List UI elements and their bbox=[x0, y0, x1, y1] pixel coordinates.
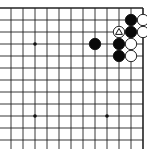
white-stone[interactable] bbox=[137, 26, 147, 37]
black-stone[interactable] bbox=[89, 38, 100, 49]
white-stone[interactable] bbox=[113, 26, 124, 37]
star-point bbox=[33, 114, 37, 118]
white-stone[interactable] bbox=[125, 38, 136, 49]
star-point bbox=[105, 114, 109, 118]
black-stone[interactable] bbox=[113, 38, 124, 49]
star-point bbox=[33, 42, 37, 46]
black-stone[interactable] bbox=[125, 14, 136, 25]
white-stone[interactable] bbox=[125, 50, 136, 61]
go-board[interactable] bbox=[0, 0, 147, 149]
white-stone[interactable] bbox=[137, 14, 147, 25]
black-stone[interactable] bbox=[113, 50, 124, 61]
stones-layer bbox=[89, 14, 147, 61]
black-stone[interactable] bbox=[125, 26, 136, 37]
